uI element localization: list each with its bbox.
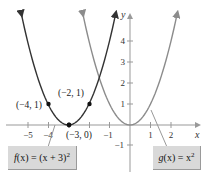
x-axis-label: x [194,129,200,140]
y-tick-label: 2 [121,78,126,88]
point-label-neg2-1: (−2, 1) [58,88,84,99]
x-tick-label: −5 [23,130,33,140]
g-func-rest: (x) = x [164,153,191,164]
point-label-neg3-0: (−3, 0) [66,130,92,141]
g-function-label: g(x) = x2 [153,146,201,170]
y-axis-label: y [120,9,126,20]
x-tick-label: −1 [103,130,113,140]
y-tick-label: 4 [121,36,126,46]
y-tick-label: −1 [114,140,124,150]
x-tick-label: 2 [169,130,174,140]
x-tick-label: 1 [148,130,153,140]
g-leader-line [151,110,167,147]
point-neg2-1 [87,102,91,106]
f-function-label: f(x) = (x + 3)2 [8,146,77,170]
f-func-exp: 2 [66,151,70,159]
point-neg4-1 [46,102,50,106]
point-label-neg4-1: (−4, 1) [16,100,42,111]
g-func-exp: 2 [191,151,195,159]
y-tick-label: 1 [121,99,126,109]
f-func-rest: (x) = (x + 3) [17,153,67,164]
point-neg3-0 [67,123,72,128]
y-tick-label: 3 [121,57,126,67]
